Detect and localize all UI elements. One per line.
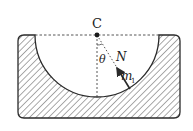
mass-subscript: 1 (131, 77, 135, 85)
center-point (95, 33, 100, 38)
force-label: N (115, 50, 127, 64)
bowl-diagram: C θ N m 1 (0, 0, 193, 131)
angle-arc (97, 44, 102, 45)
center-label: C (92, 16, 102, 31)
solid-block (18, 35, 180, 118)
angle-label: θ (99, 53, 106, 66)
